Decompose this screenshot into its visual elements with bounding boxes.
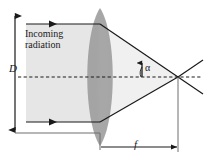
upper-diverging-ray — [178, 60, 203, 77]
focal-length-label: f — [134, 138, 137, 150]
incoming-radiation-label: Incoming radiation — [25, 28, 63, 50]
aperture-diameter-label: D — [9, 62, 17, 74]
optics-diagram-figure: Incoming radiation D α f — [0, 0, 209, 163]
lower-diverging-ray — [178, 77, 203, 94]
angle-alpha-label: α — [145, 62, 150, 73]
diagram-canvas — [0, 0, 209, 163]
aperture-extension-line — [15, 133, 100, 150]
